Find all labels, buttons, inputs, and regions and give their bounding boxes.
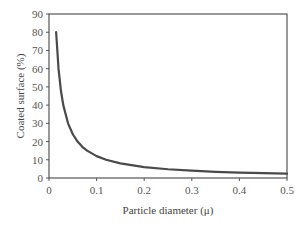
y-tick-label: 30: [32, 117, 44, 129]
x-tick-label: 0.3: [185, 184, 199, 196]
x-tick-label: 0.2: [137, 184, 151, 196]
data-line: [56, 32, 287, 173]
chart: 0102030405060708090 00.10.20.30.40.5 Par…: [0, 0, 305, 251]
y-tick-label: 40: [32, 99, 44, 111]
y-tick-label: 60: [32, 63, 44, 75]
x-tick-label: 0.1: [90, 184, 104, 196]
y-tick-label: 20: [32, 136, 44, 148]
y-tick-label: 90: [32, 8, 44, 20]
x-tick-label: 0: [46, 184, 52, 196]
plot-frame: [49, 14, 287, 178]
x-axis-title: Particle diameter (μ): [123, 204, 214, 217]
y-tick-label: 0: [38, 172, 44, 184]
y-axis-ticks: 0102030405060708090: [32, 8, 49, 184]
x-tick-label: 0.5: [280, 184, 294, 196]
y-tick-label: 50: [32, 81, 44, 93]
y-tick-label: 10: [32, 154, 44, 166]
x-axis-ticks: 00.10.20.30.40.5: [46, 178, 294, 196]
x-tick-label: 0.4: [233, 184, 247, 196]
y-tick-label: 80: [32, 26, 44, 38]
y-axis-title: Coated surface (%): [14, 53, 27, 138]
y-tick-label: 70: [32, 44, 44, 56]
